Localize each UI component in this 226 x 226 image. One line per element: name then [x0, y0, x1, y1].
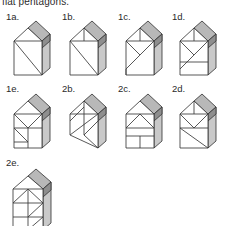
figure-1a-drawing [6, 21, 58, 75]
figure-2b-drawing [62, 93, 114, 149]
sheet-caption: flat pentagons. [2, 0, 69, 7]
figure-2e-drawing [6, 167, 60, 226]
figure-2c-drawing [118, 93, 170, 149]
figure-sheet: flat pentagons. 1a. 1b. [0, 0, 226, 226]
figure-1c-drawing [118, 21, 170, 75]
figure-1d-drawing [172, 21, 224, 75]
figure-1b-drawing [62, 21, 114, 75]
figure-2d-drawing [172, 93, 224, 149]
figure-1e-drawing [6, 93, 58, 149]
